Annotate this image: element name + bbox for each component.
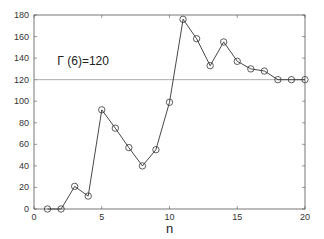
x-tick-label: 0 [31, 212, 36, 222]
y-tick-label: 100 [14, 96, 29, 106]
y-tick-label: 180 [14, 10, 29, 20]
x-tick-label: 5 [99, 212, 104, 222]
line-chart: 02040608010012014016018005101520 Γ (6)=1… [0, 0, 324, 239]
x-axis-label: n [166, 221, 173, 236]
y-tick-label: 160 [14, 32, 29, 42]
y-tick-label: 0 [24, 204, 29, 214]
axes: 02040608010012014016018005101520 [14, 10, 310, 222]
y-tick-label: 140 [14, 53, 29, 63]
y-tick-label: 60 [19, 139, 29, 149]
gamma-annotation: Γ (6)=120 [57, 54, 109, 68]
y-tick-label: 80 [19, 118, 29, 128]
x-tick-label: 20 [300, 212, 310, 222]
data-series [44, 16, 308, 212]
y-tick-label: 20 [19, 182, 29, 192]
y-tick-label: 120 [14, 75, 29, 85]
x-tick-label: 15 [232, 212, 242, 222]
plot-frame [34, 15, 305, 209]
series-line [48, 19, 306, 209]
y-tick-label: 40 [19, 161, 29, 171]
